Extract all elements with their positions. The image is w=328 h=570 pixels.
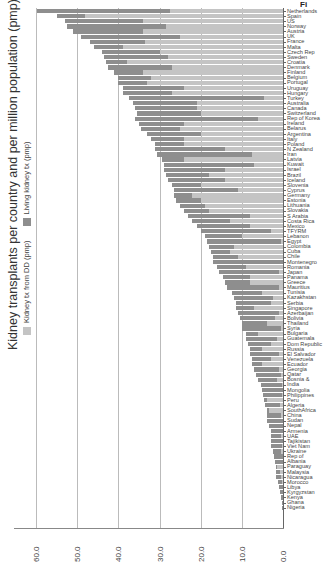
category-tick	[283, 170, 286, 171]
bar-france	[0, 40, 283, 44]
bar-segment-dd	[201, 198, 283, 202]
bar-latvia	[0, 157, 283, 161]
bar-segment-dd	[225, 178, 283, 182]
bar-segment-living	[276, 470, 280, 474]
category-tick	[283, 144, 286, 145]
category-tick	[283, 78, 286, 79]
category-tick	[283, 98, 286, 99]
bar-segment-living	[104, 55, 168, 59]
bar-segment-dd	[250, 224, 283, 228]
bar-segment-living	[37, 9, 170, 13]
bar-segment-dd	[201, 132, 283, 136]
category-tick	[283, 323, 286, 324]
category-tick	[283, 293, 286, 294]
bar-syria	[0, 326, 283, 330]
category-tick	[283, 282, 286, 283]
bar-segment-living	[176, 198, 201, 202]
bar-ukraine	[0, 449, 283, 453]
bar-segment-living	[246, 337, 277, 341]
bar-us	[0, 19, 283, 23]
category-tick	[283, 344, 286, 345]
bar-kazakhstan	[0, 296, 283, 300]
bar-segment-living	[151, 137, 184, 141]
bar-segment-living	[219, 270, 279, 274]
bar-segment-living	[57, 14, 86, 18]
bar-segment-living	[147, 132, 200, 136]
category-tick	[283, 349, 286, 350]
axis-tick-label: 60.0	[32, 546, 41, 562]
bar-segment-living	[276, 465, 277, 469]
bar-mongolia	[0, 388, 283, 392]
bar-rep-of	[0, 454, 283, 458]
bar-czech-rep	[0, 50, 283, 54]
category-tick	[283, 134, 286, 135]
axis-tick-label: 0.0	[279, 551, 288, 562]
category-tick	[283, 334, 286, 335]
bar-segment-dd	[197, 106, 283, 110]
category-tick	[283, 185, 286, 186]
bar-segment-living	[172, 183, 201, 187]
bar-nepal	[0, 424, 283, 428]
bar-segment-living	[238, 311, 279, 315]
bar-segment-living	[271, 444, 282, 448]
bar-philippines	[0, 393, 283, 397]
bar-segment-dd	[262, 347, 283, 351]
category-tick	[283, 129, 286, 130]
bar-segment-living	[155, 147, 225, 151]
category-tick	[283, 124, 286, 125]
bar-morocco	[0, 480, 283, 484]
bar-segment-living	[174, 193, 193, 197]
bar-segment-living	[278, 480, 282, 484]
bar-segment-living	[135, 117, 258, 121]
bar-segment-living	[90, 40, 146, 44]
bar-armenia	[0, 429, 283, 433]
bar-segment-dd	[238, 255, 283, 259]
category-tick	[283, 446, 286, 447]
bar-segment-living	[267, 419, 283, 423]
bar-segment-living	[267, 408, 269, 412]
bar-bosnia-	[0, 378, 283, 382]
bar-segment-dd	[166, 24, 283, 28]
bar-ghana	[0, 501, 283, 505]
bar-switzerland	[0, 111, 283, 115]
bar-segment-living	[201, 229, 271, 233]
bar-montenegro	[0, 260, 283, 264]
category-tick	[283, 26, 286, 27]
bar-slovakia	[0, 209, 283, 213]
category-tick	[283, 231, 286, 232]
category-tick	[283, 175, 286, 176]
bar-segment-dd	[205, 204, 283, 208]
bar-egypt	[0, 239, 283, 243]
bar-segment-dd	[184, 142, 283, 146]
bar-segment-dd	[180, 35, 283, 39]
axis-tick-label: 50.0	[73, 546, 82, 562]
bar-segment-living	[265, 403, 279, 407]
bar-segment-dd	[242, 234, 283, 238]
bar-segment-living	[256, 373, 281, 377]
bar-segment-living	[188, 214, 250, 218]
category-tick	[283, 21, 286, 22]
bar-segment-living	[118, 81, 147, 85]
bar-segment-living	[274, 454, 283, 458]
bar-el-salvador	[0, 352, 283, 356]
bar-segment-dd	[147, 81, 283, 85]
bar-segment-dd	[123, 45, 283, 49]
category-tick	[283, 405, 286, 406]
bar-segment-dd	[275, 316, 283, 320]
bar-segment-dd	[127, 60, 283, 64]
bar-venezuela	[0, 357, 283, 361]
bar-cyprus	[0, 188, 283, 192]
category-tick	[283, 308, 286, 309]
category-tick	[283, 492, 286, 493]
bar-paraguay	[0, 465, 283, 469]
bar-singapore	[0, 306, 283, 310]
bar-china	[0, 413, 283, 417]
bar-segment-dd	[160, 50, 283, 54]
bar-segment-living	[73, 29, 143, 33]
bar-segment-living	[67, 24, 166, 28]
chart-figure: Fi Kidney transplants per country and pe…	[0, 0, 328, 570]
category-tick	[283, 154, 286, 155]
bar-segment-dd	[269, 408, 283, 412]
bar-finland	[0, 70, 283, 74]
category-tick	[283, 257, 286, 258]
